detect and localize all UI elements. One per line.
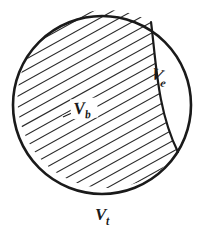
figure-container: Cross-section of a sphere partitioned in…	[0, 0, 204, 232]
sphere-partition-diagram: Cross-section of a sphere partitioned in…	[0, 0, 204, 232]
label-vt-subscript: t	[106, 215, 110, 227]
label-vb-subscript: b	[85, 108, 92, 120]
label-vt-group: V t	[95, 205, 110, 227]
